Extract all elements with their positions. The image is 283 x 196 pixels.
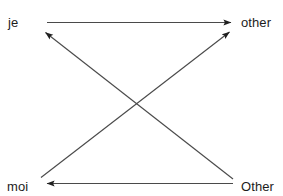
edge-moi-to-other: [41, 32, 230, 178]
node-label-je: je: [8, 16, 18, 30]
diagram-canvas: je other moi Other: [0, 0, 283, 196]
node-label-Other: Other: [241, 180, 274, 194]
node-label-other: other: [241, 16, 271, 30]
edge-other-to-je: [46, 33, 234, 180]
node-label-moi: moi: [7, 180, 28, 194]
